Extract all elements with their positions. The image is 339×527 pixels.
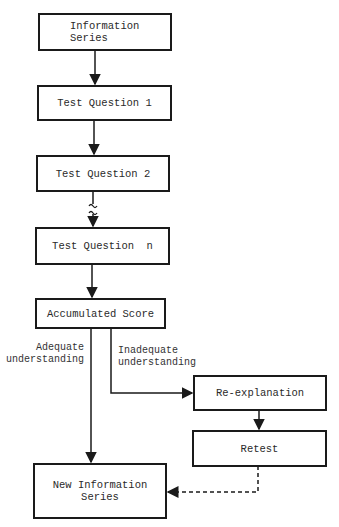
node-label: Re-explanation bbox=[216, 387, 304, 399]
node-test-question-2: Test Question 2 bbox=[36, 155, 170, 192]
node-accumulated-score: Accumulated Score bbox=[35, 298, 166, 329]
node-test-question-n: Test Question n bbox=[35, 227, 170, 265]
node-label: Information bbox=[70, 20, 139, 32]
node-retest: Retest bbox=[192, 430, 327, 467]
node-label: Test Question 2 bbox=[56, 168, 151, 180]
arrow-retest-to-new-info bbox=[168, 466, 258, 492]
node-label: Test Question n bbox=[52, 240, 153, 252]
node-label: Series bbox=[70, 32, 108, 44]
node-test-question-1: Test Question 1 bbox=[37, 85, 172, 121]
node-label: Retest bbox=[241, 443, 279, 455]
node-information-series: Information Series bbox=[38, 13, 172, 51]
node-label: Test Question 1 bbox=[57, 97, 152, 109]
node-new-information-series: New Information Series bbox=[33, 463, 167, 519]
break-mark-icon bbox=[89, 205, 97, 208]
edge-label-inadequate: Inadequate understanding bbox=[118, 345, 196, 369]
node-label: New Information bbox=[53, 479, 148, 491]
node-re-explanation: Re-explanation bbox=[193, 375, 327, 411]
node-label: Series bbox=[81, 491, 119, 503]
node-label: Accumulated Score bbox=[47, 308, 154, 320]
edge-label-adequate: Adequate understanding bbox=[6, 342, 84, 366]
